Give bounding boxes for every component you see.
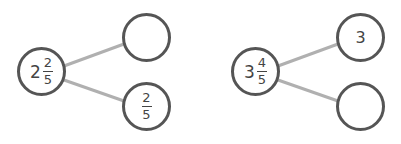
mixed-number: 2 2 5 xyxy=(30,56,53,88)
numerator: 2 xyxy=(142,91,150,105)
whole-circle-1: 2 2 5 xyxy=(17,47,66,96)
whole-part: 3 xyxy=(244,62,255,82)
mixed-number: 3 4 5 xyxy=(244,56,267,88)
part-value: 3 xyxy=(355,28,365,47)
fraction: 2 5 xyxy=(142,91,152,123)
numerator: 2 xyxy=(44,56,52,70)
fraction: 4 5 xyxy=(257,56,267,88)
denominator: 5 xyxy=(258,73,266,87)
part-circle-bottom-1: 2 5 xyxy=(122,82,171,131)
part-circle-bottom-2[interactable] xyxy=(336,82,385,131)
whole-part: 2 xyxy=(30,62,41,82)
denominator: 5 xyxy=(44,73,52,87)
numerator: 4 xyxy=(258,56,266,70)
part-circle-top-2: 3 xyxy=(336,13,385,62)
fraction: 2 5 xyxy=(43,56,53,88)
denominator: 5 xyxy=(142,108,150,122)
whole-circle-2: 3 4 5 xyxy=(231,47,280,96)
part-circle-top-1[interactable] xyxy=(122,13,171,62)
